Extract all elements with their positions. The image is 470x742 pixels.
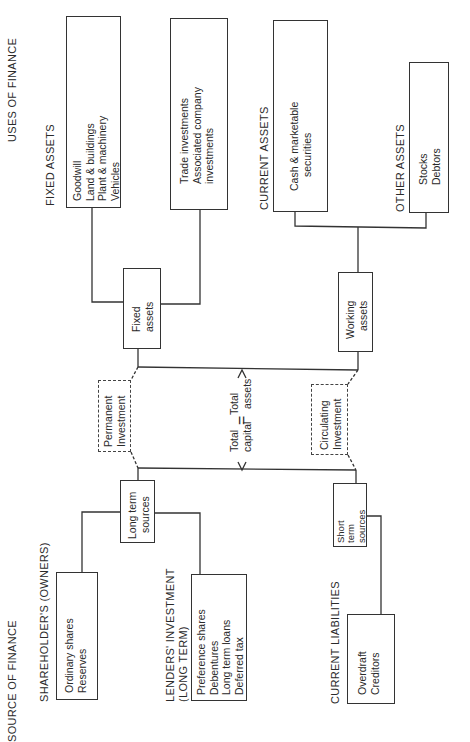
- label-line: Total: [228, 379, 241, 415]
- shareholders-list: Ordinary shares Reserves: [63, 618, 88, 693]
- item-land-buildings: Land & buildings: [84, 116, 97, 201]
- label-line: Working: [344, 301, 357, 339]
- permanent-investment-node: Permanent Investment: [98, 380, 131, 452]
- shareholders-box: Ordinary shares Reserves: [56, 572, 98, 700]
- item-debentures: Debentures: [208, 609, 221, 695]
- item-vehicles: Vehicles: [109, 116, 122, 201]
- label-line: Fixed: [130, 302, 143, 332]
- lenders-heading: LENDERS' INVESTMENT (LONG TERM): [164, 568, 190, 702]
- fixed-assets-heading: FIXED ASSETS: [44, 124, 57, 206]
- circulating-investment-node: Circulating Investment: [311, 384, 348, 455]
- heading-line: LENDERS' INVESTMENT: [164, 568, 177, 702]
- lenders-box: Preference shares Debentures Long term l…: [191, 574, 247, 701]
- circulating-investment-label: Circulating Investment: [318, 399, 343, 450]
- short-term-sources-node: Short term sources: [333, 483, 367, 547]
- current-assets-heading: CURRENT ASSETS: [258, 106, 271, 210]
- item-goodwill: Goodwill: [71, 116, 84, 201]
- item-preference-shares: Preference shares: [195, 609, 208, 695]
- short-term-sources-label: Short term sources: [336, 510, 367, 543]
- equals-sign: =: [233, 416, 251, 425]
- label-line: sources: [139, 492, 152, 539]
- label-line: Permanent: [102, 396, 115, 447]
- total-assets-label: Total assets: [228, 379, 253, 415]
- label-line: assets: [143, 302, 156, 332]
- long-term-sources-label: Long term sources: [126, 492, 151, 539]
- item-associated-company: Associated company: [191, 87, 204, 184]
- item-long-term-loans: Long term loans: [220, 609, 233, 695]
- label-line: Circulating: [318, 399, 331, 450]
- item-stocks: Stocks: [417, 148, 430, 185]
- long-term-sources-node: Long term sources: [120, 480, 155, 543]
- item-ordinary-shares: Ordinary shares: [63, 618, 76, 693]
- uses-of-finance-title: USES OF FINANCE: [6, 38, 19, 142]
- investments-list: Trade investments Associated company inv…: [178, 87, 216, 184]
- label-line: capital: [241, 422, 254, 452]
- lenders-list: Preference shares Debentures Long term l…: [195, 609, 245, 695]
- current-assets-box: Cash & marketable securities: [273, 20, 328, 212]
- connector-trade-to-fixed: [161, 210, 200, 304]
- item-deferred-tax: Deferred tax: [233, 609, 246, 695]
- item-plant-machinery: Plant & machinery: [96, 116, 109, 201]
- heading-line: (LONG TERM): [177, 568, 190, 702]
- label-line: assets: [357, 301, 370, 339]
- item-overdraft: Overdraft: [356, 651, 369, 695]
- item-trade-investments: Trade investments: [178, 87, 191, 184]
- item-investments: investments: [203, 87, 216, 184]
- other-assets-list: Stocks Debtors: [417, 148, 442, 185]
- label-line: Investment: [331, 399, 344, 450]
- shareholders-heading: SHAREHOLDER'S (OWNERS): [38, 542, 51, 702]
- label-line: assets: [241, 379, 254, 415]
- item-reserves: Reserves: [76, 618, 89, 693]
- source-of-finance-title: SOURCE OF FINANCE: [6, 620, 19, 742]
- label-line: Investment: [115, 396, 128, 447]
- label-line: sources: [357, 510, 367, 543]
- tangible-assets-list: Goodwill Land & buildings Plant & machin…: [71, 116, 121, 201]
- fixed-assets-box-tangible: Goodwill Land & buildings Plant & machin…: [66, 16, 121, 208]
- permanent-investment-label: Permanent Investment: [102, 396, 127, 447]
- working-assets-node-label: Working assets: [344, 301, 369, 339]
- label-line: Total: [228, 422, 241, 452]
- item-securities: securities: [301, 102, 314, 191]
- connector-goodwill-to-fixed: [92, 208, 123, 302]
- item-creditors: Creditors: [369, 651, 382, 695]
- current-liabilities-list: Overdraft Creditors: [356, 651, 381, 695]
- fixed-assets-node-label: Fixed assets: [130, 302, 155, 332]
- item-cash-marketable: Cash & marketable: [288, 102, 301, 191]
- other-assets-heading: OTHER ASSETS: [394, 124, 407, 212]
- label-line: Long term: [126, 492, 139, 539]
- current-assets-list: Cash & marketable securities: [288, 102, 313, 191]
- fixed-assets-node: Fixed assets: [123, 268, 161, 349]
- current-liabilities-heading: CURRENT LIABILITIES: [329, 581, 342, 704]
- fixed-assets-box-investments: Trade investments Associated company inv…: [170, 18, 228, 210]
- item-debtors: Debtors: [430, 148, 443, 185]
- other-assets-box: Stocks Debtors: [409, 62, 449, 213]
- working-assets-node: Working assets: [338, 272, 373, 352]
- current-liabilities-box: Overdraft Creditors: [347, 614, 395, 704]
- total-capital-label: Total capital: [228, 422, 253, 452]
